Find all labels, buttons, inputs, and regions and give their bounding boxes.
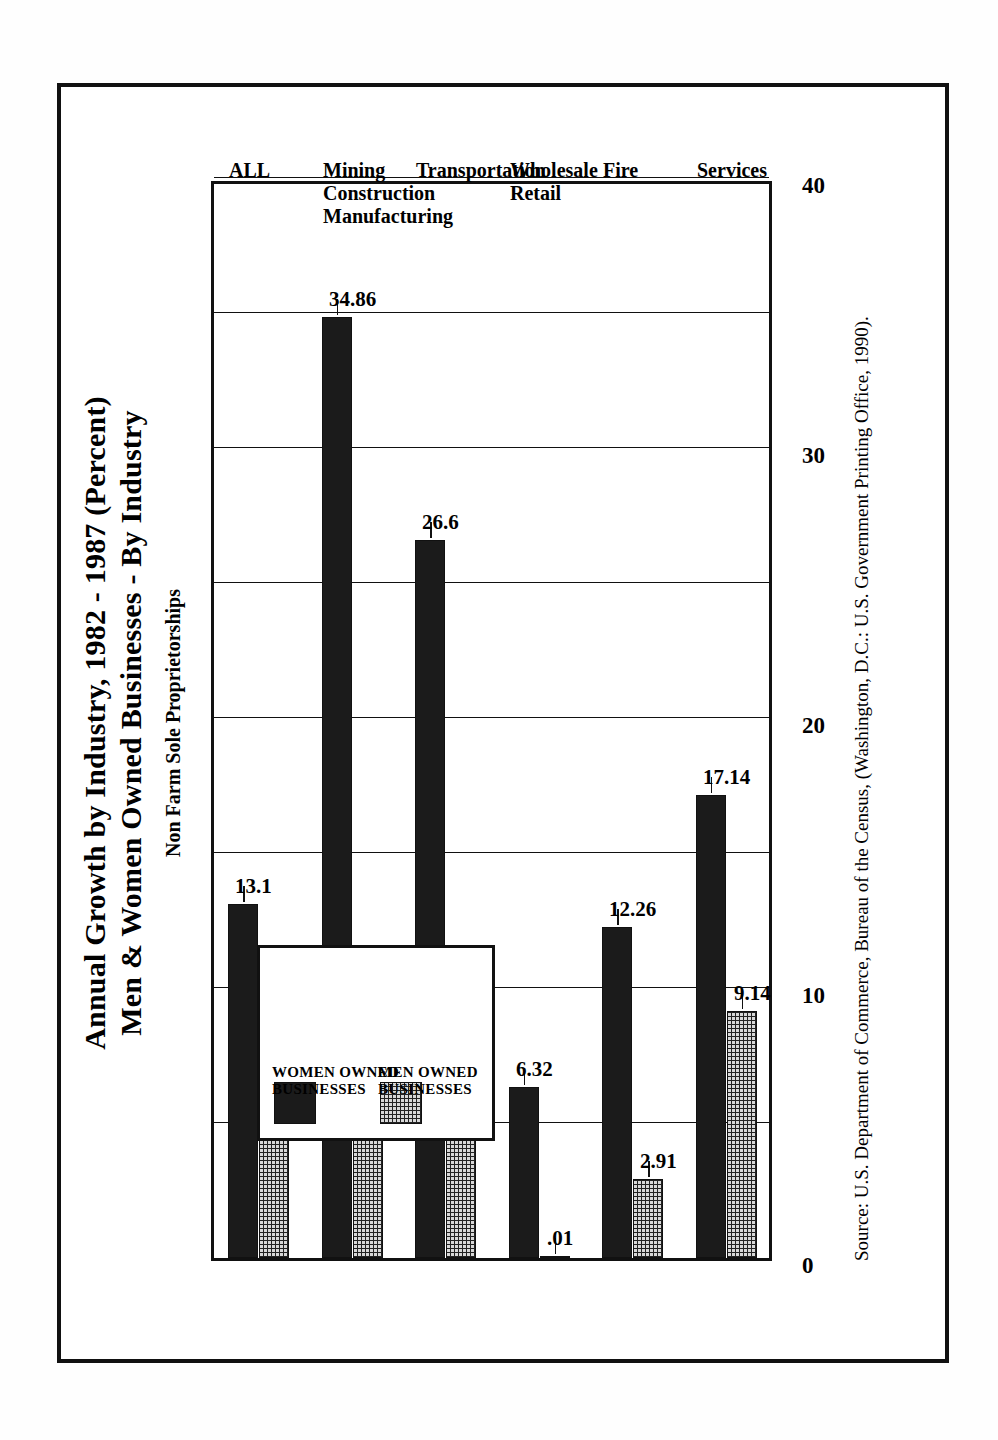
chart-legend: WOMEN OWNED BUSINESSES MEN OWNED BUSINES… [257, 945, 495, 1141]
title-block: Annual Growth by Industry, 1982 - 1987 (… [77, 87, 185, 1359]
category-label: Services [697, 159, 767, 182]
page-border: Annual Growth by Industry, 1982 - 1987 (… [57, 83, 949, 1363]
page-title-line-2: Men & Women Owned Businesses - By Indust… [113, 87, 149, 1359]
bar-value-label: .01 [547, 1226, 573, 1251]
axis-tick-label: 30 [802, 443, 825, 469]
bar-women-owned [228, 904, 258, 1258]
source-note: Source: U.S. Department of Commerce, Bur… [851, 316, 873, 1261]
bar-women-owned [696, 795, 726, 1258]
bar-men-owned [727, 1011, 757, 1258]
bar-value-label: 9.14 [734, 981, 771, 1006]
bar-men-owned [633, 1179, 663, 1258]
bar-value-label: 26.6 [422, 510, 459, 535]
axis-tick-label: 10 [802, 983, 825, 1009]
page-subtitle: Non Farm Sole Proprietorships [161, 87, 185, 1359]
figure-page: Annual Growth by Industry, 1982 - 1987 (… [0, 0, 998, 1440]
bar-men-owned [259, 1128, 289, 1258]
axis-tick-label: 0 [802, 1253, 814, 1279]
page-title-line-1: Annual Growth by Industry, 1982 - 1987 (… [77, 87, 113, 1359]
bar-women-owned [509, 1087, 539, 1258]
gridline [214, 447, 769, 448]
bar-value-label: 2.91 [640, 1149, 677, 1174]
category-label: ALL [229, 159, 270, 182]
gridline [214, 312, 769, 313]
bar-women-owned [602, 927, 632, 1258]
category-label: Wholesale Retail [510, 159, 598, 205]
axis-tick-label: 20 [802, 713, 825, 739]
legend-label-men-owned: MEN OWNED BUSINESSES [378, 1064, 578, 1098]
rotated-figure-content: Annual Growth by Industry, 1982 - 1987 (… [61, 87, 945, 1359]
gridline [214, 582, 769, 583]
bar-men-owned [540, 1256, 570, 1258]
bar-value-label: 12.26 [609, 897, 656, 922]
bar-value-label: 17.14 [703, 765, 750, 790]
axis-tick-label: 40 [802, 173, 825, 199]
gridline [214, 852, 769, 853]
bar-value-label: 13.1 [235, 874, 272, 899]
category-label: Fire [603, 159, 638, 182]
bar-women-owned [415, 540, 445, 1258]
bar-value-label: 34.86 [329, 287, 376, 312]
gridline [214, 717, 769, 718]
